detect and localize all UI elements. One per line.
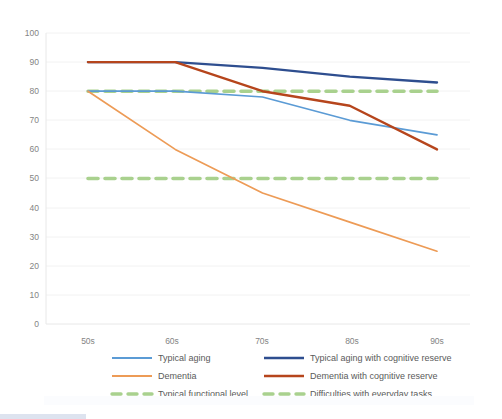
legend-label-dementia: Dementia — [158, 371, 197, 381]
y-tick-label: 80 — [30, 86, 40, 96]
series-line-typical-aging — [88, 91, 437, 135]
x-tick-label: 90s — [430, 336, 444, 346]
y-tick-label: 0 — [34, 319, 39, 329]
legend-label-dementia-with-cognitive-reserve: Dementia with cognitive reserve — [310, 371, 438, 381]
legend-label-typical-aging: Typical aging — [158, 353, 211, 363]
x-tick-label: 60s — [165, 336, 179, 346]
legend-label-typical-aging-with-cognitive-reserve: Typical aging with cognitive reserve — [310, 353, 452, 363]
x-tick-label: 70s — [255, 336, 269, 346]
legend: Typical aging Dementia Typical functiona… — [112, 353, 452, 399]
y-tick-label: 10 — [30, 290, 40, 300]
y-tick-label: 50 — [30, 173, 40, 183]
x-axis-tick-labels: 50s 60s 70s 80s 90s — [81, 336, 444, 346]
y-tick-label: 90 — [30, 57, 40, 67]
y-tick-label: 40 — [30, 203, 40, 213]
series-layer — [88, 62, 437, 251]
y-tick-label: 20 — [30, 261, 40, 271]
y-tick-label: 70 — [30, 115, 40, 125]
y-tick-label: 30 — [30, 232, 40, 242]
footer-highlight-strip — [44, 396, 474, 405]
x-tick-label: 50s — [81, 336, 95, 346]
series-line-dementia-with-cognitive-reserve — [88, 62, 437, 149]
chart-container: 100 90 80 70 60 50 40 30 20 10 0 50s 60s… — [0, 0, 502, 419]
x-tick-label: 80s — [345, 336, 359, 346]
y-tick-label: 60 — [30, 144, 40, 154]
series-line-typical-aging-with-cognitive-reserve — [88, 62, 437, 82]
y-tick-label: 100 — [25, 28, 39, 38]
series-line-dementia — [88, 91, 437, 251]
bottom-accent-strip — [0, 414, 86, 419]
y-axis-tick-labels: 100 90 80 70 60 50 40 30 20 10 0 — [25, 28, 39, 329]
line-chart: 100 90 80 70 60 50 40 30 20 10 0 50s 60s… — [0, 0, 502, 419]
